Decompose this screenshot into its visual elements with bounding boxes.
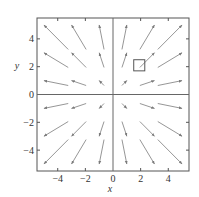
vector-arrow [72,104,87,109]
vector-arrow [72,25,87,49]
vector-arrow [99,25,104,49]
vector-arrow [140,140,155,164]
vector-arrow [72,53,87,68]
vector-arrow [99,53,104,68]
x-tick-label: −4 [52,173,63,184]
vector-arrow [140,25,155,49]
y-tick-label: 0 [29,89,34,100]
vector-arrow [44,81,68,86]
vector-arrow [158,53,182,68]
vector-arrow [44,122,68,137]
vector-arrow [99,81,104,86]
vector-arrow [122,53,127,68]
vector-arrow [158,104,182,109]
vector-arrow [99,140,104,164]
y-tick-label: 4 [29,33,34,44]
vector-arrow [158,25,182,49]
x-axis-label: x [107,183,113,194]
vector-arrow [99,122,104,137]
vector-arrow [140,81,155,86]
tick-labels: −4−2024−4−2024 [23,33,170,184]
x-tick-label: 4 [166,173,171,184]
vector-arrow [122,81,127,86]
vector-arrow [158,122,182,137]
vector-field-plot: −4−2024−4−2024 x y [0,0,199,197]
vector-arrow [99,104,104,109]
vector-arrow [44,140,68,164]
vector-arrow [72,122,87,137]
vector-arrow [44,25,68,49]
square-marker [134,60,145,71]
vector-arrow [158,140,182,164]
vector-arrow [122,25,127,49]
y-axis-label: y [14,60,20,71]
square-marker-shape [134,60,145,71]
vector-arrow [122,140,127,164]
x-tick-label: −2 [80,173,91,184]
vector-arrow [158,81,182,86]
vector-arrow [44,53,68,68]
x-tick-label: 2 [138,173,143,184]
vector-arrow [44,104,68,109]
vector-arrow [122,122,127,137]
vector-arrow [140,104,155,109]
y-tick-label: −2 [23,117,34,128]
vector-arrow [122,104,127,109]
vector-arrow [140,122,155,137]
vector-arrow [72,81,87,86]
y-tick-label: 2 [29,61,34,72]
y-tick-label: −4 [23,145,34,156]
vector-arrow [72,140,87,164]
